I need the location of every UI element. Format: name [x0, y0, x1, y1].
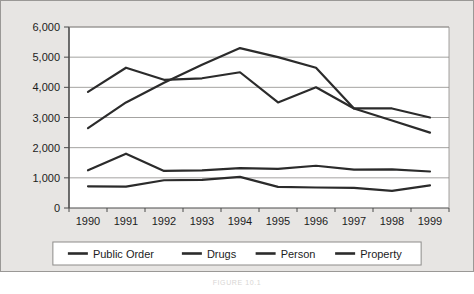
- x-axis-tick-label: 1992: [152, 215, 176, 227]
- legend-label-drugs: Drugs: [207, 248, 237, 260]
- x-axis-tick-label: 1998: [380, 215, 404, 227]
- legend-label-person: Person: [281, 248, 316, 260]
- x-axis-tick-label: 1997: [342, 215, 366, 227]
- legend-label-property: Property: [360, 248, 402, 260]
- y-axis-tick-label: 2,000: [32, 142, 60, 154]
- y-axis-tick-label: 0: [54, 202, 60, 214]
- x-axis-tick-label: 1999: [418, 215, 442, 227]
- y-axis-tick-label: 1,000: [32, 172, 60, 184]
- x-axis-tick-label: 1994: [228, 215, 252, 227]
- legend-label-public-order: Public Order: [93, 248, 154, 260]
- chart-panel: 01,0002,0003,0004,0005,0006,000199019911…: [0, 0, 474, 272]
- x-axis-tick-label: 1995: [266, 215, 290, 227]
- y-axis-tick-label: 4,000: [32, 81, 60, 93]
- y-axis-tick-label: 3,000: [32, 112, 60, 124]
- x-axis-tick-label: 1990: [76, 215, 100, 227]
- figure-container: 01,0002,0003,0004,0005,0006,000199019911…: [0, 0, 474, 294]
- x-axis-tick-label: 1993: [190, 215, 214, 227]
- line-chart: 01,0002,0003,0004,0005,0006,000199019911…: [1, 1, 473, 271]
- y-axis-tick-label: 6,000: [32, 21, 60, 33]
- figure-caption: FIGURE 10.1: [0, 279, 474, 286]
- y-axis-tick-label: 5,000: [32, 51, 60, 63]
- x-axis-tick-label: 1996: [304, 215, 328, 227]
- x-axis-tick-label: 1991: [114, 215, 138, 227]
